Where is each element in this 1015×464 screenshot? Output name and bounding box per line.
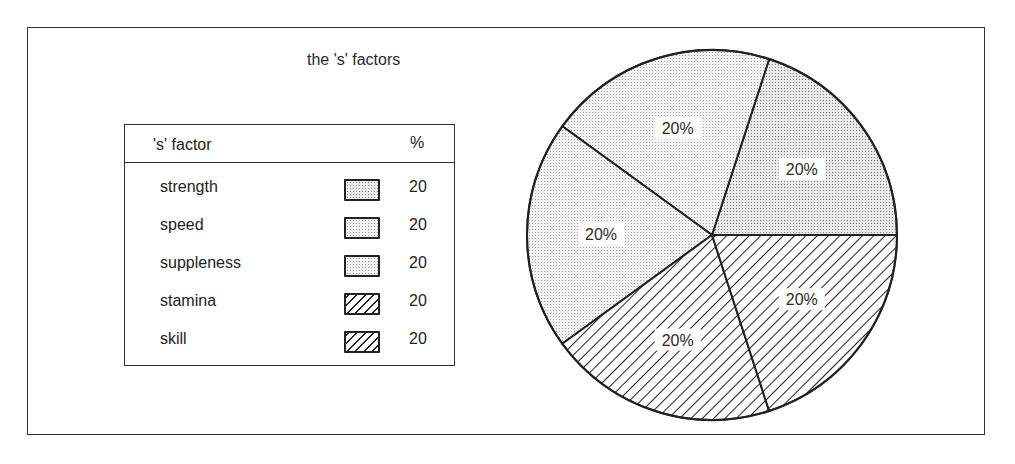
pie-slice-label: 20% <box>585 226 617 243</box>
pie-slice-label: 20% <box>786 161 818 178</box>
pie-slice-label: 20% <box>662 332 694 349</box>
pie-chart: 20%20%20%20%20% <box>0 0 1015 464</box>
pie-slice-label: 20% <box>786 291 818 308</box>
pie-slice-label: 20% <box>662 120 694 137</box>
